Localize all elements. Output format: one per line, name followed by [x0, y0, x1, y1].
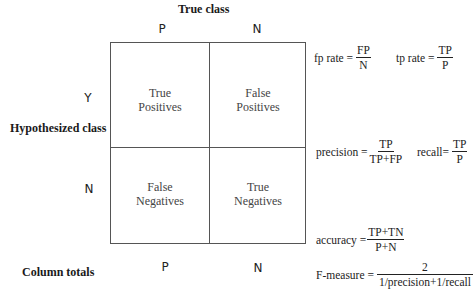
precision-numerator: TP [378, 138, 393, 152]
recall-label: recall= [417, 146, 449, 158]
tp-rate-label: tp rate = [396, 52, 434, 64]
accuracy-label: accuracy = [316, 234, 366, 246]
precision-denominator: TP+FP [369, 152, 404, 165]
f-measure-numerator: 2 [377, 261, 473, 275]
precision-fraction: TP TP+FP [369, 138, 404, 165]
column-total-n: N [254, 261, 263, 275]
fp-rate-fraction: FP N [356, 44, 371, 71]
hypothesized-class-label: Hypothesized class [10, 121, 106, 136]
true-class-heading: True class [178, 2, 229, 17]
cell-true-positives: True Positives [138, 86, 181, 114]
f-measure-fraction: 2 1/precision+1/recall [378, 261, 472, 288]
confusion-matrix-box [110, 42, 306, 244]
cell-tp-line2: Positives [138, 100, 181, 114]
recall-denominator: P [456, 152, 464, 165]
formula-accuracy: accuracy = TP+TN P+N [316, 226, 404, 253]
cell-false-positives: False Positives [236, 86, 279, 114]
cell-fp-line1: False [236, 86, 279, 100]
column-header-n: N [253, 22, 262, 36]
column-header-p: P [158, 22, 165, 36]
f-measure-label: F-measure = [316, 269, 374, 281]
column-totals-label: Column totals [22, 265, 94, 280]
formula-recall: recall= TP P [417, 138, 467, 165]
accuracy-fraction: TP+TN P+N [367, 226, 404, 253]
cell-fp-line2: Positives [236, 100, 279, 114]
fp-rate-label: fp rate = [314, 52, 353, 64]
fp-rate-numerator: FP [356, 44, 371, 58]
formula-tp-rate: tp rate = TP P [396, 44, 453, 71]
formula-fp-rate: fp rate = FP N [314, 44, 371, 71]
cell-fn-line2: Negatives [136, 194, 184, 208]
matrix-vertical-divider [209, 42, 210, 244]
recall-numerator: TP [452, 138, 467, 152]
cell-true-negatives: True Negatives [234, 180, 282, 208]
accuracy-numerator: TP+TN [367, 226, 404, 240]
fp-rate-denominator: N [358, 58, 368, 71]
tp-rate-fraction: TP P [437, 44, 452, 71]
accuracy-denominator: P+N [374, 240, 397, 253]
precision-label: precision = [316, 146, 368, 158]
tp-rate-numerator: TP [437, 44, 452, 58]
f-measure-denominator: 1/precision+1/recall [378, 275, 472, 288]
matrix-horizontal-divider [110, 147, 306, 148]
row-label-y: Y [84, 91, 91, 105]
formula-f-measure: F-measure = 2 1/precision+1/recall [316, 261, 472, 288]
cell-tp-line1: True [138, 86, 181, 100]
row-label-n: N [85, 182, 94, 196]
tp-rate-denominator: P [441, 58, 449, 71]
column-total-p: P [161, 260, 168, 274]
cell-false-negatives: False Negatives [136, 180, 184, 208]
cell-tn-line2: Negatives [234, 194, 282, 208]
cell-fn-line1: False [136, 180, 184, 194]
formula-precision: precision = TP TP+FP [316, 138, 403, 165]
cell-tn-line1: True [234, 180, 282, 194]
recall-fraction: TP P [452, 138, 467, 165]
